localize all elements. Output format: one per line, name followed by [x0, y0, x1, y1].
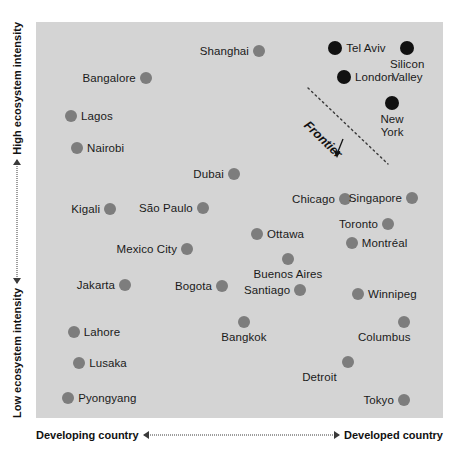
data-point-label: Montréal [362, 237, 408, 250]
data-point-label: Kigali [71, 203, 100, 216]
y-axis-arrow [12, 160, 22, 283]
data-point[interactable] [400, 41, 414, 55]
y-axis-top-label: High ecosystem intensity [11, 22, 23, 155]
data-point-label: New York [380, 113, 403, 138]
x-axis-right-label: Developed country [344, 429, 443, 441]
data-point-label: Toronto [339, 218, 378, 231]
data-point[interactable] [342, 356, 354, 368]
data-point[interactable] [406, 192, 418, 204]
data-point-label: Bangalore [83, 72, 136, 85]
data-point[interactable] [238, 316, 250, 328]
data-point-label: Mexico City [116, 243, 177, 256]
data-point[interactable] [398, 316, 410, 328]
y-axis-arrow-head-low-icon [13, 278, 21, 284]
plot-area: Frontier BangaloreShanghaiLagosNairobiDu… [36, 22, 443, 418]
data-point[interactable] [197, 202, 209, 214]
data-point-label: Bogota [175, 280, 212, 293]
y-axis-arrow-head-high-icon [13, 159, 21, 165]
scatter-chart-figure: High ecosystem intensity Low ecosystem i… [0, 0, 469, 454]
y-axis-dotted-line [17, 160, 18, 283]
data-point[interactable] [73, 357, 85, 369]
data-point-label: London [355, 71, 394, 84]
data-point[interactable] [228, 168, 240, 180]
data-point-label: São Paulo [139, 202, 193, 215]
data-point[interactable] [104, 203, 116, 215]
data-point[interactable] [65, 110, 77, 122]
data-point-label: Nairobi [87, 142, 124, 155]
data-point[interactable] [294, 284, 306, 296]
data-point-label: Dubai [193, 168, 224, 181]
data-point-label: Detroit [302, 371, 337, 384]
data-point-label: Shanghai [200, 45, 249, 58]
data-point-label: Chicago [292, 193, 335, 206]
data-point[interactable] [251, 228, 263, 240]
data-point-label: Lahore [84, 326, 120, 339]
data-point-label: Jakarta [77, 279, 115, 292]
data-point-label: Tel Aviv [346, 42, 386, 55]
y-axis-bottom-label: Low ecosystem intensity [11, 288, 23, 418]
data-point-label: Ottawa [267, 228, 304, 241]
data-point-label: Tokyo [363, 394, 394, 407]
data-point[interactable] [337, 70, 351, 84]
data-point[interactable] [71, 142, 83, 154]
frontier-down-arrow-icon [332, 138, 350, 160]
x-axis-dotted-line [144, 435, 339, 436]
data-point[interactable] [352, 288, 364, 300]
data-point[interactable] [216, 280, 228, 292]
data-point[interactable] [140, 72, 152, 84]
data-point-label: Singapore [349, 192, 402, 205]
data-point-label: Bangkok [221, 331, 266, 344]
data-point[interactable] [119, 279, 131, 291]
data-point-label: Silicon Valley [390, 58, 425, 83]
data-point-label: Winnipeg [368, 288, 417, 301]
data-point[interactable] [253, 45, 265, 57]
x-axis: Developing country Developed country [36, 424, 443, 446]
data-point[interactable] [282, 253, 294, 265]
x-axis-left-label: Developing country [36, 429, 139, 441]
x-axis-arrow [144, 430, 339, 440]
data-point[interactable] [328, 41, 342, 55]
data-point-label: Lagos [81, 110, 113, 123]
x-axis-arrow-head-developing-icon [143, 431, 149, 439]
y-axis: High ecosystem intensity Low ecosystem i… [0, 22, 34, 418]
x-axis-arrow-head-developed-icon [334, 431, 340, 439]
data-point[interactable] [181, 243, 193, 255]
data-point-label: Buenos Aires [253, 268, 322, 281]
data-point[interactable] [385, 96, 399, 110]
data-point-label: Lusaka [89, 357, 127, 370]
data-point-label: Columbus [358, 331, 411, 344]
data-point-label: Pyongyang [78, 392, 136, 405]
data-point[interactable] [398, 394, 410, 406]
data-point[interactable] [68, 326, 80, 338]
data-point[interactable] [382, 218, 394, 230]
data-point[interactable] [62, 392, 74, 404]
data-point-label: Santiago [244, 284, 290, 297]
data-point[interactable] [346, 237, 358, 249]
